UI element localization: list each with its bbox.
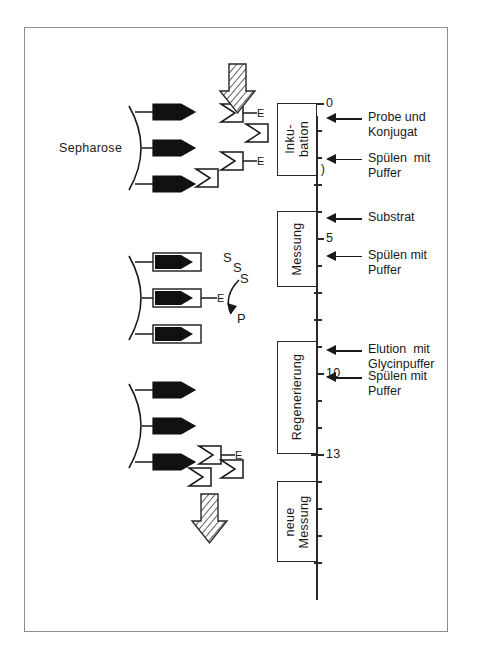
antibody-glyphs [153, 104, 195, 192]
immunoassay-timeline-figure: Zeit ( min ) 051013 Inku- bationMessungR… [0, 0, 480, 665]
sepharose-label: Sepharose [59, 141, 122, 155]
assay-illustrations: E E [25, 28, 449, 633]
reaction-product-label: P [237, 311, 246, 326]
panel-incubation: E E [129, 64, 268, 192]
panel-regeneration [129, 382, 195, 470]
free-substrate-label-1: S [223, 250, 232, 265]
svg-text:E: E [257, 155, 264, 167]
enzyme-letter-active: E [217, 292, 224, 304]
bound-antibodies [135, 112, 153, 184]
svg-text:E: E [257, 107, 264, 119]
sepharose-bead-arc-2 [129, 256, 141, 340]
svg-text:E: E [235, 449, 242, 461]
addition-arrow-bottom [192, 494, 227, 543]
reaction-substrate-label: S [240, 271, 249, 286]
sepharose-bead-arc [129, 106, 141, 190]
immune-complexes [153, 253, 201, 343]
panel-eluted: E [189, 446, 243, 543]
panel-measurement: E [129, 253, 239, 343]
sepharose-bead-arc-3 [129, 384, 141, 468]
figure-frame: Zeit ( min ) 051013 Inku- bationMessungR… [24, 27, 448, 632]
